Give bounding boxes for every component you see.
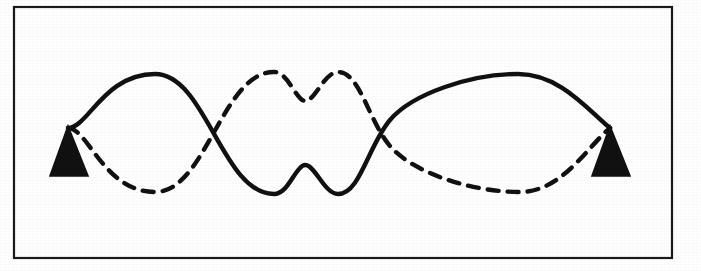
standing-wave-figure (0, 0, 701, 271)
figure-frame-border (14, 7, 672, 258)
figure-root (0, 0, 701, 271)
